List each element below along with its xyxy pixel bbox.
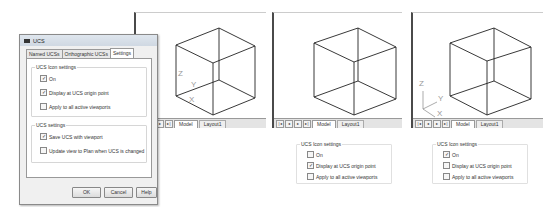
tab-layout1[interactable]: Layout1: [476, 120, 504, 128]
app-icon: [24, 39, 30, 43]
ucs-icon-settings-group: UCS Icon settings ✓ On ✓ Display at UCS …: [31, 67, 147, 117]
nav-first-button[interactable]: |◂: [276, 120, 284, 128]
checkbox-label: On: [452, 152, 459, 158]
group-label: UCS Icon settings: [35, 64, 77, 70]
ucs-axis-z-label: Z: [419, 79, 424, 88]
checkbox-apply-all-viewports[interactable]: Apply to all active viewports: [40, 103, 110, 110]
checkbox-on[interactable]: ✓ On: [40, 75, 56, 82]
tab-model[interactable]: Model: [312, 120, 336, 128]
checkbox-label: On: [316, 152, 323, 158]
checkbox-checked-icon[interactable]: ✓: [443, 151, 450, 158]
checkbox-label: Apply to all active viewports: [452, 174, 513, 180]
ucs-icon-settings-panel-2: UCS Icon settings On ✓ Display at UCS or…: [296, 140, 391, 184]
ucs-axis-x-label: X: [189, 95, 194, 104]
checkbox-unchecked-icon[interactable]: [443, 162, 450, 169]
ucs-settings-group: UCS settings ✓ Save UCS with viewport Up…: [31, 125, 147, 163]
ok-button[interactable]: OK: [72, 187, 101, 198]
ucs-icon-settings-group: UCS Icon settings ✓ On Display at UCS or…: [432, 144, 528, 184]
cube-wireframe-icon: [274, 13, 402, 118]
checkbox-label: Update view to Plan when UCS is changed: [49, 148, 144, 154]
checkbox-label: Apply to all active viewports: [49, 104, 110, 110]
checkbox-checked-icon[interactable]: ✓: [40, 89, 47, 96]
checkbox-checked-icon[interactable]: ✓: [40, 133, 47, 140]
nav-last-button[interactable]: ▸|: [303, 120, 311, 128]
checkbox-on[interactable]: ✓ On: [443, 151, 459, 158]
checkbox-label: Apply to all active viewports: [316, 174, 377, 180]
checkbox-label: Save UCS with viewport: [49, 134, 103, 140]
viewport-3[interactable]: Z Y X |◂ ◂ ▸ ▸| Model Layout1: [411, 12, 543, 128]
checkbox-apply-all-viewports[interactable]: Apply to all active viewports: [307, 173, 377, 180]
checkbox-label: On: [49, 76, 56, 82]
ucs-axis-y-label: Y: [438, 94, 443, 103]
checkbox-apply-all-viewports[interactable]: Apply to all active viewports: [443, 173, 513, 180]
nav-first-button[interactable]: |◂: [415, 120, 423, 128]
group-label: UCS settings: [35, 122, 66, 128]
checkbox-display-at-origin[interactable]: Display at UCS origin point: [443, 162, 512, 169]
checkbox-unchecked-icon[interactable]: [443, 173, 450, 180]
nav-prev-button[interactable]: ◂: [285, 120, 293, 128]
layout-tab-bar: |◂ ◂ ▸ ▸| Model Layout1: [413, 118, 543, 128]
checkbox-label: Display at UCS origin point: [452, 163, 512, 169]
group-label: UCS Icon settings: [436, 141, 478, 147]
tab-settings[interactable]: Settings: [110, 48, 134, 58]
nav-next-button[interactable]: ▸: [433, 120, 441, 128]
tab-model[interactable]: Model: [174, 120, 198, 128]
checkbox-checked-icon[interactable]: ✓: [40, 75, 47, 82]
ucs-dialog: UCS Named UCSs Orthographic UCSs Setting…: [19, 34, 158, 205]
tab-layout1[interactable]: Layout1: [337, 120, 365, 128]
settings-tab-body: UCS Icon settings ✓ On ✓ Display at UCS …: [26, 58, 152, 178]
group-label: UCS Icon settings: [300, 141, 342, 147]
checkbox-unchecked-icon[interactable]: [40, 103, 47, 110]
checkbox-label: Display at UCS origin point: [49, 90, 109, 96]
nav-prev-button[interactable]: ◂: [424, 120, 432, 128]
cancel-button[interactable]: Cancel: [104, 187, 133, 198]
ucs-icon-settings-group: UCS Icon settings On ✓ Display at UCS or…: [296, 144, 392, 184]
dialog-title-bar[interactable]: UCS: [20, 35, 157, 46]
ucs-axis-y-label: Y: [191, 80, 196, 89]
ucs-axis-z-label: Z: [178, 69, 183, 78]
checkbox-label: Display at UCS origin point: [316, 163, 376, 169]
checkbox-save-ucs-with-viewport[interactable]: ✓ Save UCS with viewport: [40, 133, 103, 140]
tab-layout1[interactable]: Layout1: [199, 120, 227, 128]
checkbox-unchecked-icon[interactable]: [307, 173, 314, 180]
checkbox-unchecked-icon[interactable]: [40, 147, 47, 154]
ucs-axis-x-label: X: [437, 109, 442, 118]
checkbox-update-view-to-plan[interactable]: Update view to Plan when UCS is changed: [40, 147, 144, 154]
checkbox-display-at-origin[interactable]: ✓ Display at UCS origin point: [40, 89, 109, 96]
cube-wireframe-icon: [413, 13, 543, 118]
dialog-title: UCS: [33, 38, 45, 44]
checkbox-display-at-origin[interactable]: ✓ Display at UCS origin point: [307, 162, 376, 169]
nav-last-button[interactable]: ▸|: [442, 120, 450, 128]
ucs-icon-settings-panel-3: UCS Icon settings ✓ On Display at UCS or…: [432, 140, 527, 184]
layout-tab-bar: |◂ ◂ ▸ ▸| Model Layout1: [274, 118, 402, 128]
nav-next-button[interactable]: ▸: [294, 120, 302, 128]
viewport-2[interactable]: |◂ ◂ ▸ ▸| Model Layout1: [272, 12, 402, 128]
tab-model[interactable]: Model: [451, 120, 475, 128]
checkbox-unchecked-icon[interactable]: [307, 151, 314, 158]
checkbox-checked-icon[interactable]: ✓: [307, 162, 314, 169]
checkbox-on[interactable]: On: [307, 151, 323, 158]
nav-last-button[interactable]: ▸|: [165, 120, 173, 128]
help-button[interactable]: Help: [136, 187, 157, 198]
